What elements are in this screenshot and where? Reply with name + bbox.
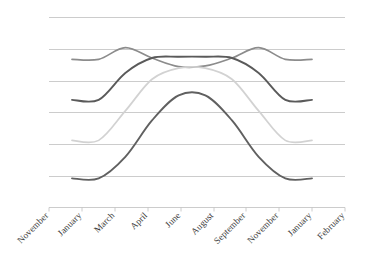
- x-tick-labels-group: November January March April June August…: [15, 210, 346, 246]
- x-tick-label: September: [212, 210, 247, 245]
- x-tick-label: November: [245, 210, 280, 245]
- x-tick-label: November: [15, 210, 50, 245]
- chart-canvas: November January March April June August…: [0, 0, 368, 266]
- x-tick-label: January: [286, 210, 314, 238]
- x-tick-label: February: [315, 210, 346, 241]
- x-tick-label: June: [163, 210, 182, 229]
- series-group: [72, 48, 312, 180]
- series-line-4: [72, 92, 312, 180]
- x-axis-group: [49, 208, 345, 212]
- x-tick-label: March: [92, 210, 117, 235]
- series-line-2: [72, 56, 312, 101]
- x-tick-label: January: [56, 210, 84, 238]
- x-tick-label: April: [128, 210, 149, 231]
- gridlines-group: [49, 18, 345, 177]
- x-tick-label: August: [189, 210, 216, 237]
- series-line-3: [72, 67, 312, 143]
- seasonal-line-chart: November January March April June August…: [0, 0, 368, 266]
